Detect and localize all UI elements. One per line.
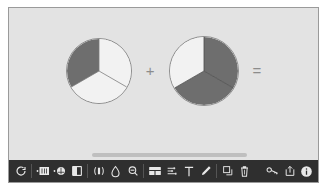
app-window: + = [8, 7, 319, 183]
key-icon[interactable] [264, 162, 281, 181]
rotate-icon[interactable] [12, 162, 29, 181]
toolbar-divider [87, 164, 88, 178]
toolbar-divider [216, 164, 217, 178]
pie-chart-left[interactable] [66, 38, 132, 104]
fill-half-icon[interactable] [68, 162, 85, 181]
toolbar-divider [31, 164, 32, 178]
mirror-icon[interactable] [90, 162, 107, 181]
pencil-icon[interactable] [197, 162, 214, 181]
pie-chart-left-slices [67, 39, 131, 103]
export-icon[interactable] [281, 162, 298, 181]
droplet-icon[interactable] [107, 162, 124, 181]
zoom-icon[interactable] [124, 162, 141, 181]
horizontal-scrollbar[interactable] [9, 151, 318, 160]
equation-row: + = [9, 8, 318, 151]
delete-icon[interactable] [236, 162, 253, 181]
grid-icon[interactable] [146, 162, 163, 181]
canvas-area[interactable]: + = [9, 8, 318, 151]
pie-chart-right[interactable] [169, 36, 239, 106]
add-circle-icon[interactable] [51, 162, 68, 181]
info-icon[interactable] [298, 162, 315, 181]
pie-chart-right-slices [170, 37, 238, 105]
scrollbar-thumb[interactable] [92, 153, 247, 157]
operator-plus: + [146, 63, 155, 78]
toolbar [9, 160, 318, 182]
duplicate-icon[interactable] [219, 162, 236, 181]
add-rectangle-icon[interactable] [34, 162, 51, 181]
text-icon[interactable] [180, 162, 197, 181]
operator-equals: = [253, 63, 262, 78]
toolbar-divider [143, 164, 144, 178]
align-icon[interactable] [163, 162, 180, 181]
